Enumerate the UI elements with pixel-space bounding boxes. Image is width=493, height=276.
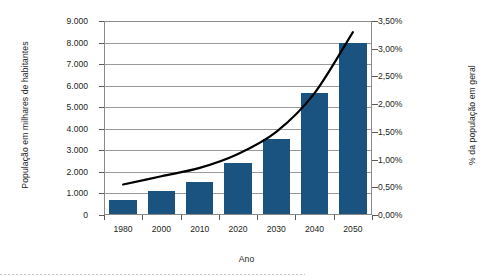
- x-axis-tick-mark: [334, 215, 335, 220]
- y-axis-left-tick-mark: [99, 150, 104, 151]
- y-axis-left-tick-mark: [99, 21, 104, 22]
- x-axis-tick-mark: [295, 215, 296, 220]
- x-axis-tick-label: 2050: [323, 224, 383, 234]
- y-axis-right-tick-mark: [372, 21, 378, 22]
- y-axis-left-tick-mark: [99, 64, 104, 65]
- plot-area: [104, 21, 372, 215]
- y-axis-left-tick-mark: [99, 129, 104, 130]
- y-axis-left-tick-mark: [99, 193, 104, 194]
- x-axis-tick-mark: [257, 215, 258, 220]
- y-axis-right-tick-mark: [372, 187, 378, 188]
- line-series: [104, 21, 372, 215]
- x-axis-tick-mark: [219, 215, 220, 220]
- percentage-line-path: [123, 32, 353, 184]
- y-axis-right-tick-mark: [372, 49, 378, 50]
- y-axis-left-tick-mark: [99, 107, 104, 108]
- y-axis-left-tick-mark: [99, 86, 104, 87]
- x-axis-tick-mark: [372, 215, 373, 220]
- y-axis-left-tick-mark: [99, 172, 104, 173]
- chart-container: População em milhares de habitantes % da…: [0, 0, 493, 276]
- bottom-dotted-rule: [0, 274, 305, 275]
- x-axis-tick-mark: [142, 215, 143, 220]
- y-axis-left-tick-mark: [99, 43, 104, 44]
- y-axis-right-tick-mark: [372, 104, 378, 105]
- y-axis-right-tick-mark: [372, 132, 378, 133]
- y-axis-right-tick-mark: [372, 76, 378, 77]
- y-axis-right-tick-mark: [372, 160, 378, 161]
- x-axis-tick-mark: [181, 215, 182, 220]
- x-axis-tick-mark: [104, 215, 105, 220]
